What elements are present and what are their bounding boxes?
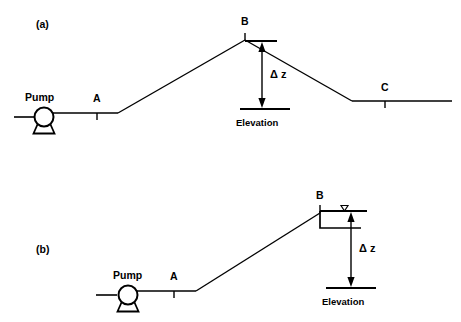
panel-b-dimension-arrow-down xyxy=(347,277,354,287)
panel-b-label: (b) xyxy=(36,243,49,255)
panel-a-rising-slope xyxy=(118,40,245,113)
panel-b-dimension-arrow-up xyxy=(347,212,354,222)
panel-b-point-a-label: A xyxy=(170,270,178,282)
panel-b-pump-label: Pump xyxy=(113,269,142,281)
panel-b-tank xyxy=(320,211,361,228)
panel-a-label: (a) xyxy=(36,18,49,30)
figure-root: (a) A B C xyxy=(0,0,461,322)
pump-elevation-diagram: (a) A B C xyxy=(0,0,461,322)
panel-b-elevation-label: Elevation xyxy=(322,296,364,307)
panel-b: (b) Pump A B xyxy=(36,189,376,312)
panel-a-pump-label: Pump xyxy=(25,91,54,103)
panel-b-point-b-label: B xyxy=(316,189,324,201)
panel-b-pump-icon xyxy=(119,286,138,305)
panel-b-delta-z-label: Δ z xyxy=(359,242,376,254)
panel-a-point-c-label: C xyxy=(381,81,389,93)
panel-a-pump-icon xyxy=(35,108,54,127)
panel-a-dimension-arrow-up xyxy=(258,42,265,52)
panel-a-elevation-label: Elevation xyxy=(236,117,278,128)
panel-a-dimension-arrow-down xyxy=(258,98,265,108)
panel-a-delta-z-label: Δ z xyxy=(270,68,287,80)
panel-b-rising-slope xyxy=(196,213,320,291)
panel-a-point-b-label: B xyxy=(241,15,249,27)
panel-a: (a) A B C xyxy=(14,15,452,134)
panel-a-point-a-label: A xyxy=(93,92,101,104)
